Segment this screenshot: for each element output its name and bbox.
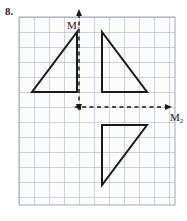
mirror-line-m2-label: M2	[170, 112, 183, 123]
m1-letter: M	[67, 19, 77, 31]
m2-letter: M	[170, 111, 180, 123]
grid-background	[19, 17, 175, 205]
m2-subscript: 2	[180, 117, 184, 125]
mirror-line-m1-label: M1	[67, 20, 80, 31]
m1-subscript: 1	[77, 25, 81, 33]
geometry-figure	[0, 0, 187, 221]
figure-container: 8. M1 M2	[0, 0, 187, 221]
problem-number: 8.	[5, 6, 13, 17]
